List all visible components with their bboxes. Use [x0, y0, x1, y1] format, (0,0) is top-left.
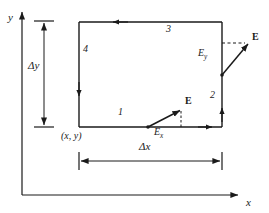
- e-y-component-label: Ey: [198, 48, 207, 58]
- e-vector-bottom-label: E: [185, 96, 192, 106]
- e-vector-right-group: [220, 43, 248, 77]
- rectangle-corner-coordinate-label: (x, y): [61, 131, 82, 141]
- e-y-component-subscript: y: [204, 53, 207, 61]
- e-vector-right-label: E: [252, 32, 259, 42]
- physics-figure: y x Δy Δx 1 2 3 4 (x, y) E Ex E Ey: [0, 0, 269, 213]
- delta-x-label: Δx: [139, 141, 150, 152]
- e-vector-bottom-group: [146, 111, 181, 129]
- axis-group: [22, 12, 238, 195]
- loop-rectangle: [79, 22, 222, 127]
- e-x-component-label: Ex: [154, 127, 163, 137]
- delta-y-dimension: [34, 21, 54, 127]
- loop-side-label-3: 3: [166, 24, 171, 34]
- e-vector-bottom-arrow: [148, 111, 180, 128]
- x-axis-label: x: [246, 197, 251, 208]
- e-x-component-subscript: x: [160, 132, 163, 140]
- e-vector-right-arrow: [222, 44, 248, 75]
- y-axis-label: y: [8, 12, 13, 23]
- loop-side-label-2: 2: [210, 90, 215, 100]
- loop-side-label-1: 1: [118, 107, 123, 117]
- delta-x-dimension: [79, 152, 222, 170]
- loop-side-label-4: 4: [83, 44, 88, 54]
- figure-drawing-canvas: [0, 0, 269, 213]
- delta-y-label: Δy: [28, 60, 39, 71]
